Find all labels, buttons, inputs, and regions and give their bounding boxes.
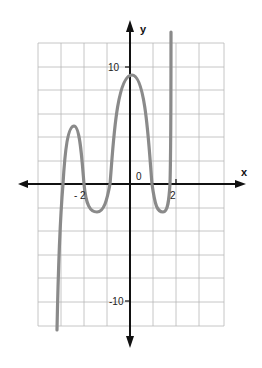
- axes: [18, 20, 246, 348]
- y-axis-down-arrow-icon: [126, 336, 134, 348]
- y-axis-up-arrow-icon: [126, 20, 134, 32]
- y-tick-label-neg10: -10: [109, 296, 124, 307]
- y-axis-label: y: [140, 23, 147, 35]
- x-axis-left-arrow-icon: [18, 180, 28, 188]
- x-axis-label: x: [241, 166, 248, 178]
- x-axis-right-arrow-icon: [235, 180, 246, 188]
- y-tick-label-pos10: 10: [108, 62, 120, 73]
- x-tick-label-neg2: - 2: [74, 190, 86, 201]
- x-tick-label-pos2: 2: [170, 190, 176, 201]
- curve: [57, 32, 171, 330]
- origin-label: 0: [136, 171, 142, 182]
- polynomial-graph: y x 0 - 2 2 10 -10: [0, 0, 262, 368]
